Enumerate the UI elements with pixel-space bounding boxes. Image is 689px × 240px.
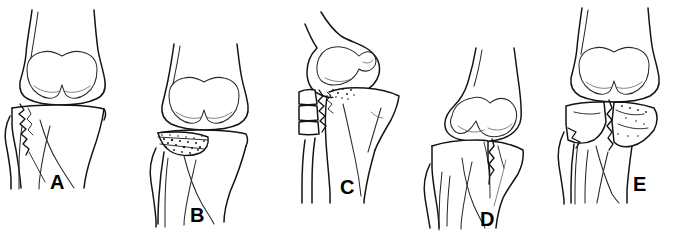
panel-label-d: D — [480, 209, 494, 229]
panel-e — [552, 0, 689, 205]
panel-a-illustration — [0, 0, 140, 200]
panel-label-c: C — [340, 177, 354, 197]
panel-label-b: B — [190, 205, 204, 225]
panel-a — [0, 0, 140, 200]
panel-b-illustration — [140, 0, 285, 228]
panel-c — [285, 0, 425, 205]
panel-c-illustration — [285, 0, 425, 205]
panel-d-illustration — [410, 0, 560, 232]
panel-e-illustration — [552, 0, 689, 205]
panel-label-a: A — [50, 172, 64, 192]
knee-fracture-figure: A B C D E — [0, 0, 689, 240]
panel-b — [140, 0, 285, 228]
panel-label-e: E — [633, 174, 646, 194]
panel-d — [410, 0, 560, 232]
